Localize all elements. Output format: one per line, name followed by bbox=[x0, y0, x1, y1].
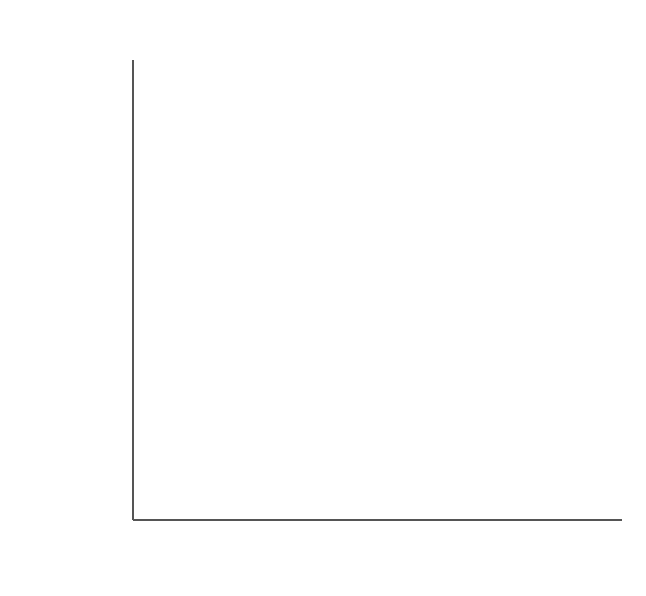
global-carbon-emissions-chart bbox=[0, 0, 646, 596]
chart-figure bbox=[0, 0, 646, 596]
axis-lines bbox=[133, 60, 622, 520]
